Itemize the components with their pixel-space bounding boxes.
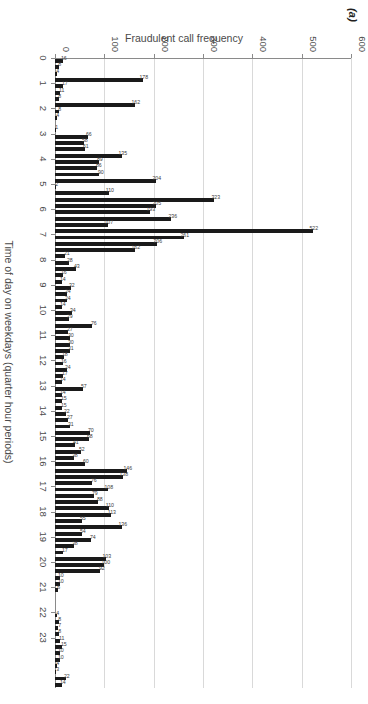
x-tick-label: 20 <box>38 557 49 568</box>
x-tick-label: 5 <box>38 181 49 186</box>
bar-value-label: 162 <box>132 245 141 250</box>
bar-value-label: 31 <box>68 421 74 426</box>
bar-value-label: 57 <box>81 384 87 389</box>
bar-value-label: 2 <box>56 182 59 187</box>
bar-value-label: 323 <box>211 195 220 200</box>
x-axis-title: Time of day on weekdays (quarter hour pe… <box>3 0 15 704</box>
bar-value-label: 138 <box>120 472 129 477</box>
bar-value-label: 3 <box>56 667 59 672</box>
bar-value-label: 136 <box>119 522 128 527</box>
x-tick-label: 15 <box>38 431 49 442</box>
x-tick-label: 23 <box>38 632 49 643</box>
bar-value-label: 24 <box>65 289 71 294</box>
bar-value-label: 236 <box>168 213 177 218</box>
bar: 108 <box>55 488 108 492</box>
bar: 4 <box>55 614 57 618</box>
bar-value-label: 10 <box>58 648 64 653</box>
bar: 110 <box>55 506 109 510</box>
bar: 21 <box>55 254 65 258</box>
x-tick-mark <box>51 360 55 361</box>
bar-value-label: 522 <box>309 226 318 231</box>
y-tick-label: 200 <box>159 36 170 52</box>
x-tick-mark <box>51 461 55 462</box>
bar-value-label: 108 <box>105 484 114 489</box>
bar: 107 <box>55 223 108 227</box>
bar: 60 <box>55 462 85 466</box>
bar-value-label: 14 <box>60 377 66 382</box>
y-tick-label: 300 <box>209 36 220 52</box>
bar: 11 <box>55 639 60 643</box>
y-tick-label: 600 <box>357 36 368 52</box>
x-tick-mark <box>51 512 55 513</box>
bar-value-label: 29 <box>67 314 73 319</box>
bar-value-label: 52 <box>79 447 85 452</box>
bar: 1 <box>55 128 56 132</box>
bar: 16 <box>55 362 63 366</box>
bar-value-label: 193 <box>147 207 156 212</box>
x-tick-label: 22 <box>38 607 49 618</box>
bar-value-label: 18 <box>62 352 68 357</box>
bar: 138 <box>55 475 123 479</box>
bar: 136 <box>55 525 122 529</box>
y-tick-mark <box>351 54 352 58</box>
x-tick-mark <box>51 310 55 311</box>
bar-value-label: 14 <box>60 680 66 685</box>
x-tick-label: 16 <box>38 456 49 467</box>
bar: 14 <box>55 280 62 284</box>
x-tick-label: 0 <box>38 55 49 60</box>
bar: 90 <box>55 173 99 177</box>
bar: 54 <box>55 532 82 536</box>
bar-value-label: 76 <box>91 321 97 326</box>
bar-value-label: 74 <box>90 535 96 540</box>
bar-value-label: 113 <box>108 510 116 515</box>
x-tick-label: 8 <box>38 257 49 262</box>
bar: 103 <box>55 557 106 561</box>
bar-value-label: 27 <box>66 415 72 420</box>
bar: 100 <box>55 563 104 567</box>
x-tick-label: 11 <box>38 330 49 340</box>
x-tick-mark <box>51 587 55 588</box>
x-tick-label: 9 <box>38 282 49 287</box>
bar: 28 <box>55 261 69 265</box>
y-tick-label: 0 <box>61 47 72 52</box>
x-tick-mark <box>51 209 55 210</box>
bar: 261 <box>55 236 184 240</box>
y-tick-label: 100 <box>110 36 121 52</box>
x-tick-mark <box>51 260 55 261</box>
x-tick-label: 2 <box>38 106 49 111</box>
bar-value-label: 162 <box>132 100 141 105</box>
plot-inner: 0100200300400500600 16841781711816284166… <box>55 58 351 688</box>
bar: 2 <box>55 185 56 189</box>
bar: 14 <box>55 683 62 687</box>
bar-value-label: 16 <box>61 270 67 275</box>
bar: 38 <box>55 456 74 460</box>
bar-value-label: 110 <box>106 188 114 193</box>
bar: 55 <box>55 519 82 523</box>
x-tick-mark <box>51 83 55 84</box>
bar-value-label: 8 <box>58 629 61 634</box>
bar: 135 <box>55 154 122 158</box>
x-tick-label: 10 <box>38 305 49 316</box>
bar-value-label: 16 <box>61 358 67 363</box>
x-tick-label: 18 <box>38 506 49 517</box>
bar-value-label: 38 <box>72 541 78 546</box>
bar-value-label: 41 <box>73 440 79 445</box>
x-tick-label: 13 <box>38 380 49 391</box>
bar-value-label: 8 <box>58 94 61 99</box>
bar-value-label: 24 <box>65 295 71 300</box>
bar: 162 <box>55 103 135 107</box>
bar: 178 <box>55 78 143 82</box>
bar: 4 <box>55 72 57 76</box>
bar-value-label: 90 <box>98 169 104 174</box>
bar-value-label: 14 <box>60 302 66 307</box>
bar-value-label: 178 <box>139 75 148 80</box>
bar: 193 <box>55 210 150 214</box>
plot-area: 0100200300400500600 16841781711816284166… <box>55 58 351 688</box>
x-tick-label: 1 <box>38 81 49 86</box>
bar-value-label: 17 <box>61 81 67 86</box>
bar-value-label: 61 <box>83 144 89 149</box>
bar-value-label: 60 <box>83 459 89 464</box>
bar: 76 <box>55 324 92 328</box>
bar: 76 <box>55 481 92 485</box>
